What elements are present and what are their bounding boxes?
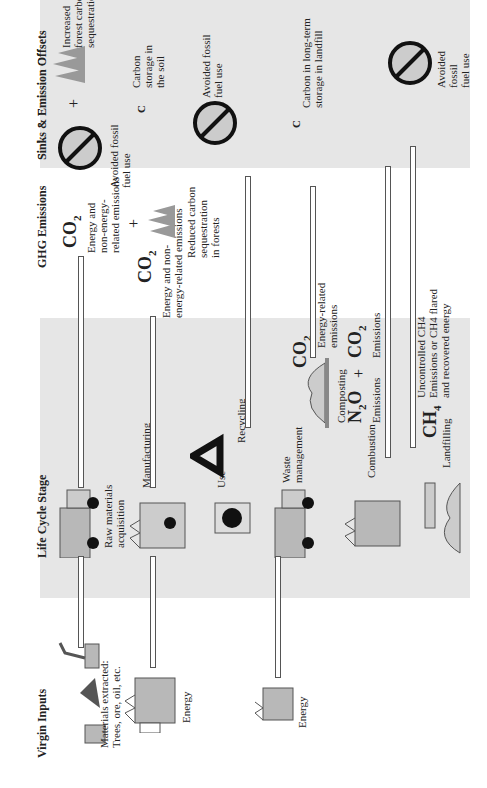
avoided-fossil-3-label-2: fossil: [447, 64, 459, 88]
n2o-label: Emissions: [370, 378, 382, 423]
use-icon: [210, 493, 255, 543]
landfilling-icon: [420, 478, 465, 558]
ch4-label-2: Emissions or CH4 flared: [427, 289, 439, 398]
co2-a-label-2: non-energy-: [97, 199, 109, 253]
ch4-label-3: and recovered energy: [439, 304, 451, 398]
arrow-recycling-to-offset: [245, 176, 251, 428]
n2o-emissions: N2O: [345, 390, 368, 423]
forest-increased-label-1: Increased: [60, 6, 72, 48]
header-life-cycle-stage: Life Cycle Stage: [35, 475, 50, 558]
ch4-label-1: Uncontrolled CH4: [415, 316, 427, 398]
co2-b-label-1: Energy and non-: [160, 245, 172, 318]
arrow-combustion-to-emissions: [385, 166, 391, 458]
avoided-fossil-fuel-icon-2: [190, 98, 240, 148]
co2-energy-non-energy-b: CO2: [135, 251, 158, 284]
energy-plant-icon-2: [255, 683, 295, 728]
co2-emissions-d: CO2: [345, 326, 368, 359]
avoided-fossil-fuel-icon-3: [385, 38, 435, 88]
energy-label-1: Energy: [180, 691, 192, 723]
soil-storage-label-2: storage in: [142, 45, 154, 88]
avoided-fossil-1-label-2: fuel use: [120, 153, 132, 188]
factory-manufacturing-icon: [130, 498, 190, 558]
forest-increased-label-3: sequestration: [84, 0, 96, 48]
plus-sign-emissions-2: +: [350, 369, 368, 378]
plus-sign-emissions-1: +: [125, 219, 143, 228]
virgin-materials-label-2: Trees, ore, oil, etc.: [110, 666, 122, 748]
carbon-c-landfill: C: [290, 120, 302, 128]
raw-materials-label-1: Raw materials: [102, 485, 114, 548]
header-ghg-emissions: GHG Emissions: [35, 186, 50, 268]
co2-a-label-3: related emissions: [109, 177, 121, 253]
combustion-label: Combustion: [365, 424, 377, 478]
virgin-materials-label-1: Materials extracted:: [98, 660, 110, 748]
soil-storage-label-3: the soil: [154, 56, 166, 88]
avoided-fossil-2-label-1: Avoided fossil: [200, 34, 212, 98]
forest-reduced-label-1: Reduced carbon: [185, 187, 197, 258]
truck-waste-icon: [270, 488, 315, 558]
waste-management-label-2: management: [292, 427, 304, 483]
composting-icon: [300, 358, 330, 428]
arrow-compost-to-emissions: [310, 186, 316, 358]
header-virgin-inputs: Virgin Inputs: [35, 689, 50, 758]
landfill-storage-label-2: storage in landfill: [312, 30, 324, 108]
energy-plant-icon-1: [125, 673, 180, 733]
truck-raw-materials-icon: [55, 488, 100, 558]
arrow-raw-to-emissions: [78, 256, 84, 488]
co2-b-label-2: energy-related emissions: [172, 209, 184, 318]
combustion-icon: [345, 493, 405, 558]
arrow-energy-to-waste: [275, 556, 281, 678]
arrow-virgin-to-raw: [78, 556, 84, 648]
co2-d-label: Emissions: [370, 313, 382, 358]
avoided-fossil-3-label-1: Avoided: [435, 51, 447, 88]
avoided-fossil-2-label-2: fuel use: [212, 63, 224, 98]
life-cycle-band: [40, 318, 470, 598]
soil-storage-label-1: Carbon: [130, 56, 142, 88]
recycling-icon: [190, 433, 235, 478]
energy-label-2: Energy: [296, 696, 308, 728]
avoided-fossil-3-label-3: fuel use: [459, 53, 471, 88]
arrow-energy-to-manufacturing: [150, 556, 156, 668]
plus-sign-sinks: +: [65, 99, 83, 108]
co2-a-label-1: Energy and: [85, 203, 97, 253]
avoided-fossil-1-label-1: Avoided fossil: [108, 124, 120, 188]
ch4-emissions: CH4: [420, 406, 443, 439]
co2-energy-non-energy-a: CO2: [60, 216, 83, 249]
life-cycle-diagram: Virgin Inputs Life Cycle Stage GHG Emiss…: [0, 0, 487, 788]
header-sinks-offsets-2: Sinks & Emission Offsets: [35, 30, 50, 160]
raw-materials-label-2: acquisition: [114, 500, 126, 548]
co2-c-label-2: emissions: [327, 305, 339, 348]
forest-increased-icon: [50, 43, 90, 88]
forest-reduced-label-3: in forests: [209, 217, 221, 258]
forest-reduced-label-2: sequestration: [197, 200, 209, 258]
waste-management-label-1: Waste: [280, 456, 292, 483]
arrow-manufacturing-to-emissions: [150, 316, 156, 488]
avoided-fossil-fuel-icon-1: [55, 123, 105, 173]
forest-increased-label-2: forest carbon: [72, 0, 84, 48]
arrow-landfill-to-emissions: [410, 146, 416, 448]
landfill-storage-label-1: Carbon in long-term: [300, 18, 312, 108]
co2-c-label-1: Energy-related: [315, 283, 327, 348]
carbon-c-soil: C: [135, 105, 147, 113]
